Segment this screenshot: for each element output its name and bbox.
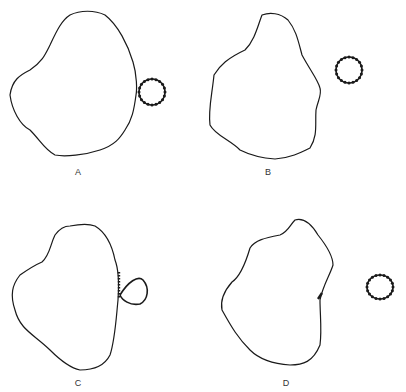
bead [386, 295, 389, 298]
panel-d [222, 219, 393, 365]
bead-ring-d [367, 275, 393, 299]
bead [358, 61, 361, 64]
panel-label-c: C [75, 378, 82, 388]
bead [163, 86, 166, 89]
bead [161, 98, 164, 101]
bead [391, 282, 394, 285]
bead-dots [138, 56, 395, 301]
diagram-canvas: A B C D [0, 0, 406, 392]
bead [138, 95, 141, 98]
bead [143, 101, 146, 104]
bead [379, 298, 382, 301]
bead [361, 69, 364, 72]
bead [155, 103, 158, 106]
bead [371, 276, 374, 279]
bead [383, 274, 386, 277]
bead [379, 274, 382, 277]
panel-label-d: D [283, 378, 290, 388]
bead [138, 91, 141, 94]
bead [335, 64, 338, 67]
bead [368, 293, 371, 296]
bead [164, 91, 167, 94]
bead [151, 104, 154, 107]
bead [161, 83, 164, 86]
bead [374, 297, 377, 300]
bead [335, 73, 338, 76]
bead [366, 282, 369, 285]
bead [340, 79, 343, 82]
bead [348, 56, 351, 59]
panel-b [209, 13, 362, 159]
bead [151, 78, 154, 81]
bead [158, 80, 161, 83]
bead [340, 58, 343, 61]
bead [138, 86, 141, 89]
bead [383, 297, 386, 300]
bead [158, 101, 161, 104]
bead [366, 286, 369, 289]
bead [386, 276, 389, 279]
panel-label-a: A [75, 167, 81, 177]
bead [360, 64, 363, 67]
bead [337, 61, 340, 64]
bead [352, 81, 355, 84]
bead [371, 295, 374, 298]
bead [391, 289, 394, 292]
bead-loop-c [120, 278, 147, 304]
bead [143, 80, 146, 83]
panel-label-b: B [265, 167, 271, 177]
cell-outline-a [10, 11, 137, 156]
bead [337, 76, 340, 79]
bead [358, 76, 361, 79]
bead [146, 78, 149, 81]
bead [163, 95, 166, 98]
panel-c [12, 225, 147, 371]
bead [140, 98, 143, 101]
bead [343, 56, 346, 59]
cell-outline-d [222, 219, 333, 365]
bead-ring-a [139, 79, 165, 105]
bead [374, 274, 377, 277]
bead-ring-b [336, 57, 362, 83]
cell-outline-c [12, 225, 118, 371]
bead [335, 69, 338, 72]
bead [389, 278, 392, 281]
bead [368, 278, 371, 281]
bead [355, 58, 358, 61]
bead [392, 286, 395, 289]
bead [352, 56, 355, 59]
bead-remnant-d [318, 293, 322, 299]
bead [355, 79, 358, 82]
cell-outline-b [209, 13, 320, 159]
bead [389, 293, 392, 296]
bead [146, 103, 149, 106]
bead [140, 83, 143, 86]
bead [360, 73, 363, 76]
bead [348, 82, 351, 85]
bead [366, 289, 369, 292]
bead [343, 81, 346, 84]
bead [155, 78, 158, 81]
